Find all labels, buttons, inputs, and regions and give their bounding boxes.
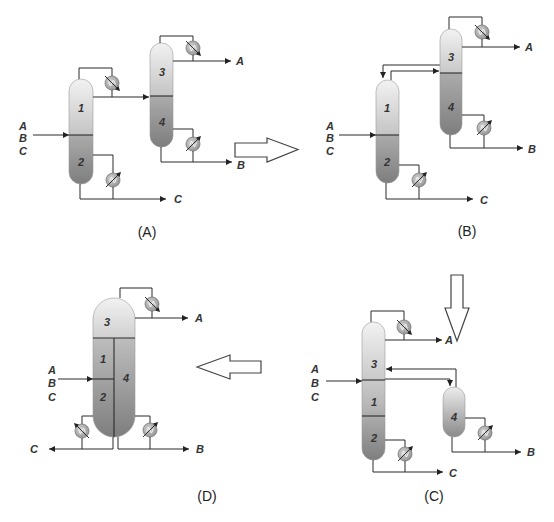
- feed-label-b: B: [311, 377, 319, 389]
- condenser-icon: [186, 41, 201, 56]
- product-label-c: C: [174, 193, 183, 205]
- product-label-c: C: [449, 467, 458, 479]
- product-b-arrow: [450, 135, 523, 148]
- panel-caption-d: (D): [197, 488, 216, 504]
- reboiler-icon: [186, 136, 201, 151]
- vapor-interconnect-arrow: [391, 71, 439, 80]
- product-label-b: B: [237, 159, 245, 171]
- section-label-1: 1: [371, 396, 377, 408]
- feed-label-c: C: [48, 391, 57, 403]
- product-c-arrow: [80, 184, 166, 199]
- feed-label-b: B: [48, 377, 56, 389]
- section-label-4: 4: [122, 372, 129, 384]
- condenser-icon: [397, 320, 412, 335]
- vapor-return-arrow: [386, 369, 456, 387]
- product-label-a: A: [235, 55, 244, 67]
- product-label-b: B: [528, 143, 536, 155]
- feed-label-a: A: [325, 120, 334, 132]
- product-b-arrow: [118, 437, 189, 449]
- column-1: [69, 79, 93, 184]
- condenser-icon: [145, 297, 160, 312]
- feed-label-a: A: [18, 120, 27, 132]
- product-label-b: B: [527, 446, 535, 458]
- column-2: [150, 43, 173, 147]
- panel-caption-a: (A): [138, 224, 157, 240]
- section-label-2: 2: [383, 156, 390, 168]
- section-label-4: 4: [450, 411, 457, 423]
- column-2: [440, 29, 462, 135]
- feed-label-c: C: [311, 391, 320, 403]
- reboiler-icon: [106, 172, 121, 187]
- reboiler-icon: [478, 425, 493, 440]
- product-c-arrow: [49, 437, 113, 449]
- product-label-b: B: [196, 443, 204, 455]
- panel-caption-c: (C): [424, 488, 443, 504]
- reboiler-icon: [477, 120, 492, 135]
- section-label-4: 4: [158, 116, 165, 128]
- transition-arrow-down: [445, 275, 469, 341]
- section-label-3: 3: [159, 66, 165, 78]
- section-label-2: 2: [99, 391, 106, 403]
- section-label-3: 3: [448, 51, 454, 63]
- feed-label-c: C: [19, 145, 28, 157]
- feed-label-b: B: [19, 132, 27, 144]
- feed-label-a: A: [47, 364, 56, 376]
- product-c-arrow: [386, 183, 473, 199]
- product-c-arrow: [373, 460, 443, 472]
- product-label-c: C: [480, 194, 489, 206]
- section-label-1: 1: [384, 102, 390, 114]
- panel-a-direct-sequence: 1 2 A B C C 3 4 A B (A): [18, 36, 245, 240]
- feed-label-c: C: [326, 145, 335, 157]
- product-label-a: A: [524, 41, 533, 53]
- panel-c-side-stripper: 3 1 2 A B C A C 4 B (C): [310, 311, 535, 504]
- section-label-2: 2: [370, 432, 377, 444]
- distillation-sequence-figure: 1 2 A B C C 3 4 A B (A): [0, 0, 554, 522]
- section-label-1: 1: [100, 353, 106, 365]
- section-label-3: 3: [371, 358, 377, 370]
- reboiler-icon: [412, 172, 427, 187]
- reboiler-icon: [398, 446, 413, 461]
- section-label-1: 1: [78, 102, 84, 114]
- panel-d-dividing-wall-column: 3 1 2 4 A B C A C B (D): [30, 288, 217, 504]
- section-label-4: 4: [447, 101, 454, 113]
- reboiler-icon: [74, 423, 89, 438]
- condenser-icon: [475, 25, 490, 40]
- panel-b-thermally-coupled: 1 2 A B C C 3 4 A B (B): [325, 17, 536, 239]
- product-label-a: A: [194, 312, 203, 324]
- feed-label-b: B: [326, 132, 334, 144]
- reboiler-icon: [143, 422, 158, 437]
- panel-caption-b: (B): [458, 223, 477, 239]
- section-label-3: 3: [104, 316, 110, 328]
- product-label-a: A: [444, 334, 453, 346]
- condenser-icon: [105, 76, 120, 91]
- product-label-c: C: [30, 443, 39, 455]
- section-label-2: 2: [77, 156, 84, 168]
- liquid-draw-arrow: [385, 379, 450, 386]
- transition-arrow-left: [197, 355, 261, 379]
- feed-label-a: A: [310, 363, 319, 375]
